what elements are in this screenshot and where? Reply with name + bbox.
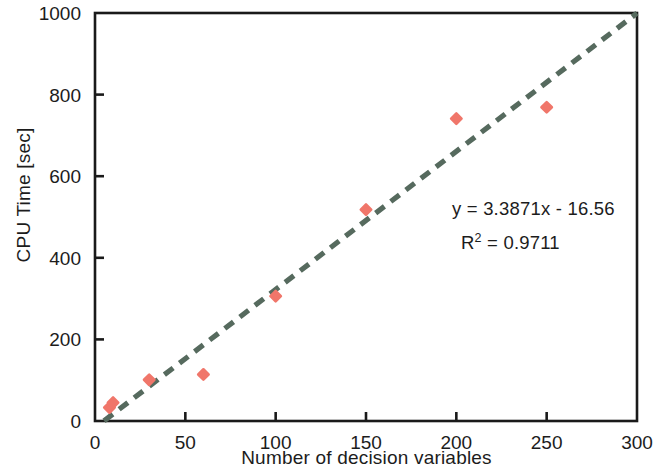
data-point [451,113,461,123]
trendline-equation-annotation: y = 3.3871x - 16.56 [452,198,615,220]
r-squared-exponent: 2 [475,231,482,245]
chart-figure: CPU Time [sec] Number of decision variab… [0,0,656,475]
data-point [198,369,208,379]
r-squared-annotation: R2 = 0.9711 [461,232,560,254]
r-squared-value: = 0.9711 [482,232,560,253]
data-point [541,102,551,112]
r-squared-symbol: R [461,232,475,253]
data-point [361,204,371,214]
